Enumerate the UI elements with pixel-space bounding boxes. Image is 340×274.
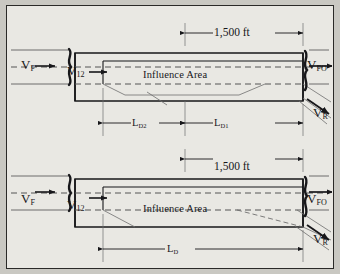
lower-v12-symbol: V <box>67 197 76 212</box>
lower-ramp-speed-label: VR <box>313 232 328 245</box>
upper-overall-dimension-label: 1,500 ft <box>214 27 250 39</box>
upper-influence-area-label: Influence Area <box>143 70 207 81</box>
lower-vfo-subscript: FO <box>316 198 327 207</box>
upper-vr-subscript: R <box>322 112 328 121</box>
upper-vf-symbol: V <box>21 57 30 72</box>
upper-upstream-speed-label: VF <box>21 58 35 71</box>
upper-vr-symbol: V <box>313 105 322 120</box>
upper-v12-symbol: V <box>67 63 76 78</box>
lower-ld-subscript: D <box>173 248 178 255</box>
lower-influence-area-label: Influence Area <box>143 204 207 215</box>
schematic-drawing <box>7 6 332 267</box>
upper-vfo-subscript: FO <box>316 64 327 73</box>
upper-vf-subscript: F <box>30 64 35 73</box>
figure-page: 1,500 ft VF V12 VFO VR Influence Area LD… <box>0 0 340 274</box>
upper-ld1-subscript: D1 <box>220 122 228 129</box>
lower-vr-subscript: R <box>322 238 328 247</box>
lower-vf-symbol: V <box>21 191 30 206</box>
lower-taper-lines <box>103 210 331 240</box>
lower-downstream-speed-label: VFO <box>307 192 327 205</box>
upper-downstream-speed-label: VFO <box>307 58 327 71</box>
lower-left-roadway <box>11 176 69 210</box>
upper-ramp-speed-label: VR <box>313 106 328 119</box>
lower-ld-label: LD <box>167 244 178 255</box>
upper-ld2-label: LD2 <box>132 118 147 129</box>
lower-dim-extensions <box>103 214 303 262</box>
lower-vr-symbol: V <box>313 231 322 246</box>
lower-segment-speed-label: V12 <box>67 198 85 211</box>
upper-ld2-subscript: D2 <box>138 122 146 129</box>
upper-left-roadway <box>11 50 69 84</box>
upper-ld1-label: LD1 <box>214 118 229 129</box>
lower-v12-subscript: 12 <box>76 204 84 213</box>
upper-segment-speed-label: V12 <box>67 64 85 77</box>
upper-v12-subscript: 12 <box>76 70 84 79</box>
upper-vfo-symbol: V <box>307 57 316 72</box>
lower-vf-subscript: F <box>30 198 35 207</box>
upper-taper-lines <box>103 84 265 105</box>
lower-overall-dimension-label: 1,500 ft <box>214 161 250 173</box>
lower-upstream-speed-label: VF <box>21 192 35 205</box>
figure-plate: 1,500 ft VF V12 VFO VR Influence Area LD… <box>6 5 334 269</box>
lower-vfo-symbol: V <box>307 191 316 206</box>
